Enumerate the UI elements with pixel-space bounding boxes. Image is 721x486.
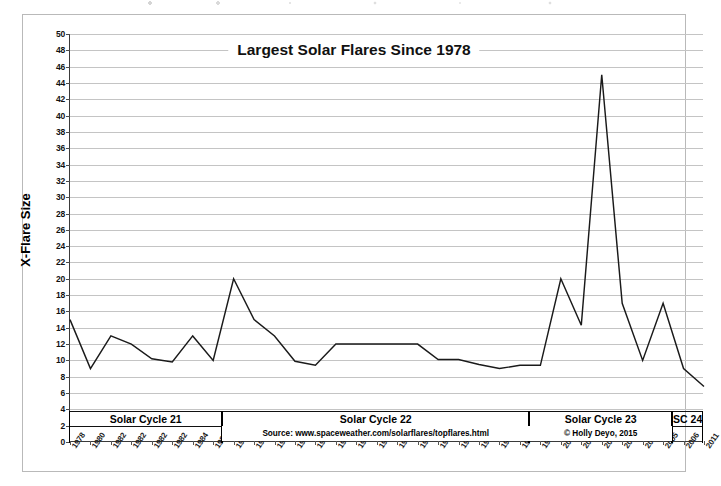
y-tick-label: 26 bbox=[56, 225, 65, 235]
y-tick-label: 20 bbox=[56, 274, 65, 284]
y-tick-label: 10 bbox=[56, 355, 65, 365]
x-tick-label: 2011 bbox=[704, 431, 721, 450]
y-tick-label: 18 bbox=[56, 290, 65, 300]
y-tick-label: 12 bbox=[56, 339, 65, 349]
y-tick-label: 36 bbox=[56, 143, 65, 153]
y-tick-label: 34 bbox=[56, 160, 65, 170]
y-tick-label: 48 bbox=[56, 45, 65, 55]
y-axis-title: X-Flare Size bbox=[18, 193, 33, 267]
copyright-annotation: © Holly Deyo, 2015 bbox=[529, 426, 672, 441]
y-tick-label: 46 bbox=[56, 62, 65, 72]
y-tick-label: 28 bbox=[56, 209, 65, 219]
scan-artifact-strip bbox=[120, 0, 590, 7]
y-tick-label: 42 bbox=[56, 94, 65, 104]
y-tick-label: 44 bbox=[56, 78, 65, 88]
chart-annotations: Source: www.spaceweather.com/solarflares… bbox=[69, 426, 703, 442]
solar-cycle-label: SC 24 bbox=[673, 412, 702, 426]
chart-frame: X-Flare Size Largest Solar Flares Since … bbox=[22, 14, 686, 472]
plot-area: 0246810121416182022242628303234363840424… bbox=[69, 34, 703, 442]
y-tick-label: 50 bbox=[56, 29, 65, 39]
y-tick-label: 2 bbox=[60, 421, 65, 431]
y-tick-label: 30 bbox=[56, 192, 65, 202]
y-tick-label: 8 bbox=[60, 372, 65, 382]
y-tick-label: 40 bbox=[56, 111, 65, 121]
y-tick-label: 14 bbox=[56, 323, 65, 333]
y-tick-label: 16 bbox=[56, 306, 65, 316]
y-tick-label: 38 bbox=[56, 127, 65, 137]
y-tick-label: 22 bbox=[56, 257, 65, 267]
y-tick-label: 0 bbox=[60, 437, 65, 447]
y-tick-label: 32 bbox=[56, 176, 65, 186]
y-tick-label: 4 bbox=[60, 404, 65, 414]
flare-size-line-series bbox=[70, 34, 704, 442]
solar-cycle-label: Solar Cycle 21 bbox=[70, 412, 221, 426]
solar-cycle-label: Solar Cycle 23 bbox=[530, 412, 671, 426]
x-axis-labels: 1978198019821982198219821984198419891989… bbox=[69, 442, 703, 486]
chart-title: Largest Solar Flares Since 1978 bbox=[228, 41, 479, 59]
y-tick-label: 6 bbox=[60, 388, 65, 398]
y-tick-label: 24 bbox=[56, 241, 65, 251]
solar-cycle-label: Solar Cycle 22 bbox=[223, 412, 528, 426]
source-annotation: Source: www.spaceweather.com/solarflares… bbox=[222, 426, 529, 441]
